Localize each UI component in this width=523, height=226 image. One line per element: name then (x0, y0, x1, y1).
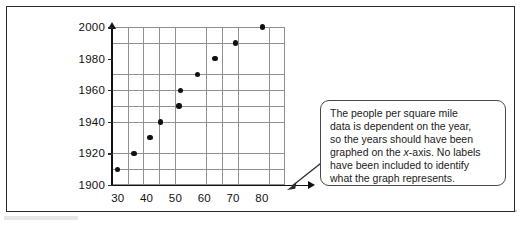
y-axis-line (111, 27, 113, 186)
data-point (147, 135, 152, 140)
data-point (233, 40, 238, 45)
x-tick-label: 60 (198, 192, 211, 204)
y-tick-mark (108, 122, 113, 123)
y-tick-label: 2000 (79, 21, 105, 33)
scatter-chart: 190019201940196019802000 304050607080 (112, 27, 285, 185)
data-point (176, 103, 181, 108)
screenshot-page: 190019201940196019802000 304050607080 Th… (0, 0, 523, 226)
y-tick-label: 1960 (79, 84, 105, 96)
y-tick-label: 1900 (79, 179, 105, 191)
callout-line-6: what the graph represents. (330, 172, 455, 184)
callout-text: The people per square mile data is depen… (330, 107, 497, 186)
scan-artifact (4, 216, 78, 220)
chart-gridlines (112, 27, 285, 185)
y-tick-mark (108, 27, 113, 28)
data-point (212, 56, 217, 61)
data-point (158, 119, 163, 124)
y-tick-mark (108, 59, 113, 60)
y-tick-label: 1940 (79, 116, 105, 128)
y-tick-label: 1980 (79, 53, 105, 65)
callout-line-4-post: -axis. No labels (409, 146, 481, 158)
x-tick-label: 50 (169, 192, 182, 204)
y-tick-mark (108, 185, 113, 186)
callout-line-1: The people per square mile (330, 107, 458, 119)
callout-line-5: have been included to identify (330, 159, 469, 171)
callout-box: The people per square mile data is depen… (320, 100, 506, 186)
callout-line-2: data is dependent on the year, (330, 120, 471, 132)
x-tick-label: 40 (140, 192, 153, 204)
callout-line-3: so the years should have been (330, 133, 473, 145)
x-tick-label: 80 (255, 192, 268, 204)
data-point (260, 24, 265, 29)
callout-line-4-pre: graphed on the (330, 146, 404, 158)
x-axis-line (111, 185, 311, 187)
x-tick-label: 70 (226, 192, 239, 204)
y-tick-mark (108, 90, 113, 91)
figure-frame: 190019201940196019802000 304050607080 Th… (6, 6, 515, 212)
y-tick-mark (108, 153, 113, 154)
data-point (131, 151, 136, 156)
x-tick-label: 30 (111, 192, 124, 204)
y-tick-label: 1920 (79, 147, 105, 159)
